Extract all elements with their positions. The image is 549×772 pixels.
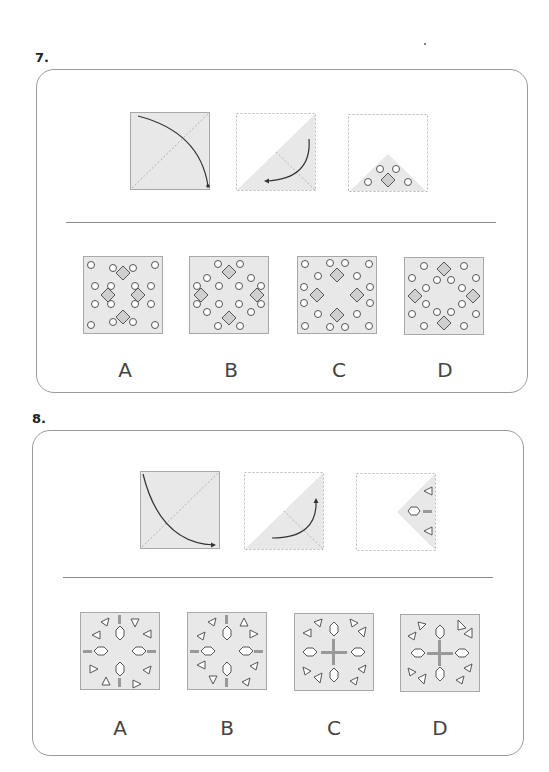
q8-cut-pattern bbox=[356, 473, 436, 551]
q8-option-d-figure[interactable] bbox=[400, 614, 480, 692]
q7-option-c-figure[interactable] bbox=[297, 256, 377, 334]
q8-fold-step-1 bbox=[140, 471, 220, 549]
q7-option-a-label[interactable]: A bbox=[105, 358, 145, 382]
q8-fold-step-2 bbox=[244, 472, 324, 550]
q8-option-a-figure[interactable] bbox=[80, 612, 160, 690]
q7-option-d-label[interactable]: D bbox=[425, 358, 465, 382]
question-8-number: 8. bbox=[32, 411, 46, 426]
q7-option-d-figure[interactable] bbox=[404, 257, 484, 335]
q8-divider bbox=[63, 577, 493, 578]
q8-option-b-figure[interactable] bbox=[187, 612, 267, 690]
q8-option-d-label[interactable]: D bbox=[420, 716, 460, 740]
stray-dot bbox=[424, 43, 426, 45]
q7-option-c-label[interactable]: C bbox=[319, 358, 359, 382]
q8-option-c-figure[interactable] bbox=[294, 613, 374, 691]
q7-fold-step-1 bbox=[130, 112, 210, 190]
q8-option-c-label[interactable]: C bbox=[314, 716, 354, 740]
q7-divider bbox=[66, 222, 496, 223]
q8-option-a-label[interactable]: A bbox=[100, 716, 140, 740]
q7-cut-pattern bbox=[348, 114, 428, 192]
q7-fold-step-2 bbox=[236, 113, 316, 191]
q8-option-b-label[interactable]: B bbox=[207, 716, 247, 740]
q7-option-b-label[interactable]: B bbox=[211, 358, 251, 382]
question-7-number: 7. bbox=[35, 50, 49, 65]
q7-option-b-figure[interactable] bbox=[189, 256, 269, 334]
q7-option-a-figure[interactable] bbox=[83, 256, 163, 334]
